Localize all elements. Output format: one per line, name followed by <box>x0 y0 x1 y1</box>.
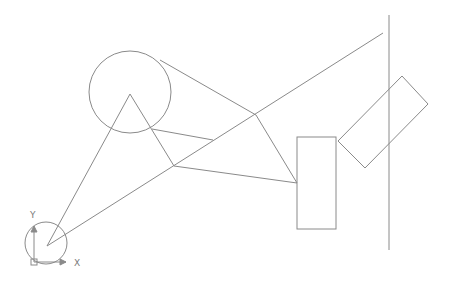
ucs-icon: Y X <box>25 210 80 268</box>
ucs-x-arrow-icon <box>60 259 66 265</box>
line-circle-to-mid <box>152 129 213 140</box>
line-origin-to-far <box>47 33 383 246</box>
big-circle <box>89 51 171 133</box>
line-apex-to-origin <box>47 94 130 246</box>
line-vertex-c-to-rect <box>256 115 297 183</box>
drawing-canvas[interactable]: Y X <box>0 0 449 283</box>
rectangle <box>297 137 336 229</box>
ucs-circle <box>25 222 67 264</box>
rotated-rectangle <box>338 76 428 168</box>
ucs-y-label: Y <box>29 210 36 220</box>
ucs-axes <box>25 222 67 265</box>
line-apex-to-vertex-b <box>130 94 174 166</box>
ucs-x-label: X <box>74 258 80 268</box>
drawing-geometry <box>47 15 428 250</box>
line-tangent-top <box>160 60 256 115</box>
line-vertex-b-to-rect <box>174 166 297 183</box>
